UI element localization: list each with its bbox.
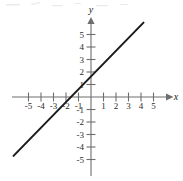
y-tick-label: -2: [77, 117, 85, 127]
x-tick-label: 1: [101, 101, 106, 111]
y-axis-label: y: [88, 4, 94, 15]
y-tick-label: 4: [80, 42, 85, 52]
y-axis-arrowhead: [87, 17, 94, 24]
x-tick-label: 2: [114, 101, 119, 111]
y-tick-label: -3: [77, 130, 85, 140]
y-tick-label: -4: [77, 142, 85, 152]
x-tick-label: -4: [37, 101, 45, 111]
x-axis-label: x: [173, 91, 179, 102]
x-tick-label: 3: [126, 101, 131, 111]
graph-figure: -5 -4 -3 -2 -1 1 2 3 4 5 5 4 3 2 1 -1 -2…: [0, 0, 183, 181]
x-tick-label: 5: [151, 101, 156, 111]
x-axis-arrowhead: [166, 93, 174, 100]
x-tick-label: -5: [25, 101, 33, 111]
y-tick-label: 2: [80, 67, 85, 77]
coordinate-plane: -5 -4 -3 -2 -1 1 2 3 4 5 5 4 3 2 1 -1 -2…: [0, 0, 183, 181]
y-tick-label: -1: [77, 105, 85, 115]
y-tick-label: -5: [77, 155, 85, 165]
x-tick-label: 4: [139, 101, 144, 111]
y-tick-label: 3: [80, 55, 85, 65]
x-tick-label: -3: [50, 101, 58, 111]
y-tick-label: 5: [80, 30, 85, 40]
axes-group: [12, 17, 174, 176]
